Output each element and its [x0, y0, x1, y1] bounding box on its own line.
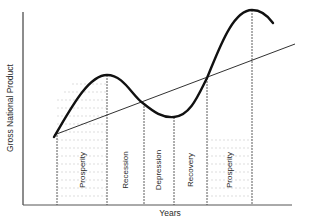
y-axis-label: Gross National Product: [5, 63, 15, 152]
phase-label-prosperity-2: Prosperity: [225, 152, 234, 188]
phase-label-recession: Recession: [121, 151, 130, 188]
business-cycle-diagram: Gross National Product Years Prosperity …: [0, 0, 320, 223]
x-axis-label: Years: [159, 208, 180, 218]
phase-label-depression: Depression: [154, 150, 163, 190]
trend-line: [54, 44, 295, 135]
cycle-curve: [54, 10, 273, 137]
phase-label-recovery: Recovery: [186, 153, 195, 187]
phase-label-prosperity-1: Prosperity: [78, 152, 87, 188]
